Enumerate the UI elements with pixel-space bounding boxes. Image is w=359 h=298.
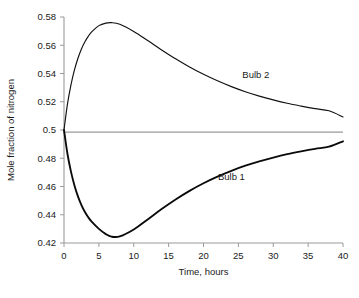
x-tick-label-0: 0 xyxy=(61,250,66,261)
chart-container: 0.42 0.44 0.46 0.48 0.5 0.52 0.54 0.56 0… xyxy=(0,0,359,298)
y-axis-tick-labels: 0.42 0.44 0.46 0.48 0.5 0.52 0.54 0.56 0… xyxy=(38,11,57,248)
y-tick-label-8: 0.58 xyxy=(38,11,57,22)
x-tick-label-3: 15 xyxy=(163,250,174,261)
x-tick-label-7: 35 xyxy=(303,250,314,261)
y-tick-label-1: 0.44 xyxy=(38,209,57,220)
y-tick-label-0: 0.42 xyxy=(38,237,57,248)
x-tick-label-4: 20 xyxy=(198,250,209,261)
y-tick-label-6: 0.54 xyxy=(38,68,57,79)
y-tick-label-7: 0.56 xyxy=(38,40,57,51)
y-tick-label-4: 0.5 xyxy=(43,124,56,135)
x-tick-label-8: 40 xyxy=(338,250,349,261)
x-tick-label-5: 25 xyxy=(233,250,244,261)
x-tick-label-6: 30 xyxy=(268,250,279,261)
x-tick-label-1: 5 xyxy=(96,250,101,261)
x-axis-ticks xyxy=(64,243,343,247)
series-label-bulb-1: Bulb 1 xyxy=(218,171,245,182)
y-axis-title: Mole fraction of nitrogen xyxy=(5,79,16,181)
series-line-bulb-1 xyxy=(64,130,343,237)
line-chart: 0.42 0.44 0.46 0.48 0.5 0.52 0.54 0.56 0… xyxy=(0,0,359,298)
x-axis-tick-labels: 0 5 10 15 20 25 30 35 40 xyxy=(61,250,348,261)
series-label-bulb-2: Bulb 2 xyxy=(242,69,269,80)
y-tick-label-2: 0.46 xyxy=(38,181,57,192)
x-tick-label-2: 10 xyxy=(128,250,139,261)
series-line-bulb-2 xyxy=(64,23,343,130)
axes-group xyxy=(64,17,343,243)
y-tick-label-3: 0.48 xyxy=(38,153,57,164)
x-axis-title: Time, hours xyxy=(179,266,229,277)
y-tick-label-5: 0.52 xyxy=(38,96,57,107)
